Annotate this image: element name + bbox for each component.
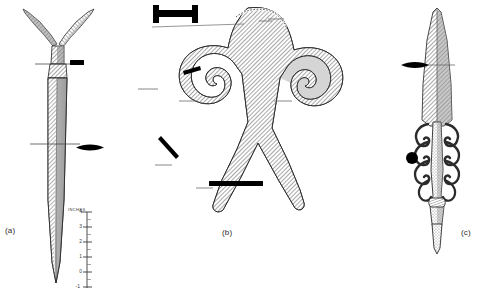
openwork-scrolls-left (415, 124, 431, 201)
antenna-arm-right-shade (62, 9, 94, 48)
figure-label-c: (c) (461, 228, 471, 237)
tip-c (432, 224, 442, 254)
cross-section-wide-flat-bar (209, 181, 263, 186)
figure-c-openwork-dagger (401, 8, 459, 254)
scale-label-4: 4 (72, 208, 82, 214)
cross-section-diagonal-bar (158, 136, 179, 159)
figure-b-double-spiral-hilt (138, 5, 343, 212)
hilt-grip-a-shade (57, 46, 64, 64)
scale-label-3: 3 (72, 223, 82, 229)
scale-label-minus1: -1 (70, 283, 80, 289)
cross-section-lenticular-a (76, 145, 104, 151)
grip-shaft-c-shade (437, 122, 444, 240)
artifact-plate: INCHES 4 3 2 1 0 -1 (a) (b) (c) (0, 0, 477, 297)
scale-label-0: 0 (72, 268, 82, 274)
scale-label-2: 2 (72, 238, 82, 244)
cross-section-circular (406, 152, 418, 164)
figure-label-a: (a) (5, 226, 15, 235)
cross-section-rectangular-bar (70, 60, 84, 65)
openwork-scrolls-right (443, 124, 459, 201)
antenna-arm-left-shade (23, 9, 57, 47)
guard-a (48, 64, 67, 78)
cross-section-i-beam (153, 5, 198, 23)
leader-line-b-top (152, 24, 244, 27)
figure-label-b: (b) (222, 228, 232, 237)
scale-bar (81, 212, 92, 288)
pommel-knob-c (429, 198, 446, 207)
scale-label-1: 1 (72, 253, 82, 259)
